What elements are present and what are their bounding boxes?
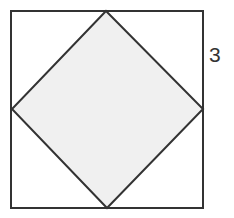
geometry-figure: 3 [0,0,234,218]
side-length-label: 3 [209,43,221,66]
